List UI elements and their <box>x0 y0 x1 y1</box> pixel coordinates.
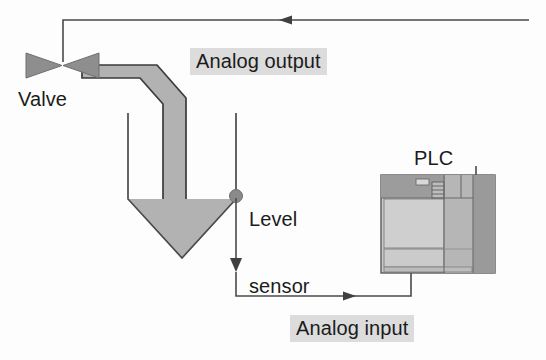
process-control-diagram: Valve PLC Level sensor Analog output Ana… <box>0 0 546 360</box>
plc-module-icon <box>381 175 495 273</box>
arrow-left-icon <box>279 16 292 25</box>
arrow-right-icon <box>343 292 356 301</box>
level-sensor-label-line1: Level <box>249 208 310 230</box>
arrow-down-icon <box>230 258 242 272</box>
plc-label: PLC <box>414 147 453 169</box>
pipe-icon <box>82 65 186 205</box>
analog-input-label: Analog input <box>290 315 414 342</box>
analog-output-label: Analog output <box>190 48 327 75</box>
valve-label: Valve <box>18 88 67 110</box>
level-sensor-label-line2: sensor <box>249 275 310 297</box>
